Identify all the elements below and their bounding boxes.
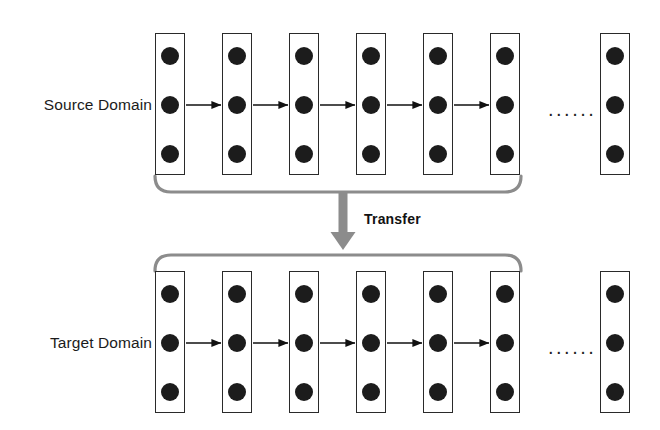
node-dot — [429, 383, 447, 401]
node-column-source-4 — [356, 33, 386, 175]
node-dot — [295, 334, 313, 352]
node-dot — [228, 145, 246, 163]
node-dot — [429, 47, 447, 65]
node-dot — [362, 47, 380, 65]
node-column-source-2 — [222, 33, 252, 175]
node-dot — [429, 96, 447, 114]
ellipsis-source: ...... — [548, 99, 596, 119]
node-dot — [496, 334, 514, 352]
diagram-canvas: Source Domain Target Domain Transfer ...… — [0, 0, 660, 430]
transfer-arrow-shaft — [339, 191, 348, 232]
node-dot — [496, 96, 514, 114]
node-dot — [228, 47, 246, 65]
node-dot — [161, 285, 179, 303]
node-dot — [606, 96, 624, 114]
node-column-target-7 — [600, 271, 630, 413]
bracket-source — [155, 176, 521, 192]
bracket-path-source — [155, 176, 521, 192]
node-dot — [606, 47, 624, 65]
node-column-target-1 — [155, 271, 185, 413]
node-dot — [496, 383, 514, 401]
node-column-target-3 — [289, 271, 319, 413]
node-column-target-6 — [490, 271, 520, 413]
node-dot — [496, 145, 514, 163]
node-dot — [429, 285, 447, 303]
ellipsis-target: ...... — [548, 337, 596, 357]
node-dot — [295, 285, 313, 303]
node-dot — [161, 145, 179, 163]
node-dot — [362, 285, 380, 303]
node-column-target-4 — [356, 271, 386, 413]
node-dot — [496, 285, 514, 303]
node-dot — [161, 383, 179, 401]
node-dot — [429, 334, 447, 352]
node-dot — [161, 96, 179, 114]
node-dot — [228, 334, 246, 352]
node-column-target-2 — [222, 271, 252, 413]
node-dot — [295, 47, 313, 65]
transfer-arrow-head — [331, 232, 356, 250]
node-column-source-3 — [289, 33, 319, 175]
transfer-label: Transfer — [364, 211, 421, 227]
transfer-arrow — [331, 191, 356, 250]
node-dot — [161, 47, 179, 65]
node-dot — [362, 145, 380, 163]
node-dot — [295, 96, 313, 114]
node-dot — [606, 383, 624, 401]
node-column-target-5 — [423, 271, 453, 413]
node-dot — [362, 383, 380, 401]
node-column-source-5 — [423, 33, 453, 175]
node-dot — [295, 383, 313, 401]
diagram-vector-layer — [0, 0, 660, 430]
node-dot — [228, 96, 246, 114]
node-dot — [606, 334, 624, 352]
source-domain-label: Source Domain — [0, 96, 152, 114]
node-dot — [606, 285, 624, 303]
node-column-source-7 — [600, 33, 630, 175]
node-dot — [429, 145, 447, 163]
node-dot — [228, 285, 246, 303]
bracket-path-target — [155, 255, 521, 271]
node-dot — [161, 334, 179, 352]
target-domain-label: Target Domain — [0, 334, 152, 352]
node-column-source-1 — [155, 33, 185, 175]
bracket-target — [155, 255, 521, 271]
node-dot — [228, 383, 246, 401]
node-column-source-6 — [490, 33, 520, 175]
node-dot — [606, 145, 624, 163]
node-dot — [496, 47, 514, 65]
node-dot — [362, 334, 380, 352]
node-dot — [362, 96, 380, 114]
node-dot — [295, 145, 313, 163]
